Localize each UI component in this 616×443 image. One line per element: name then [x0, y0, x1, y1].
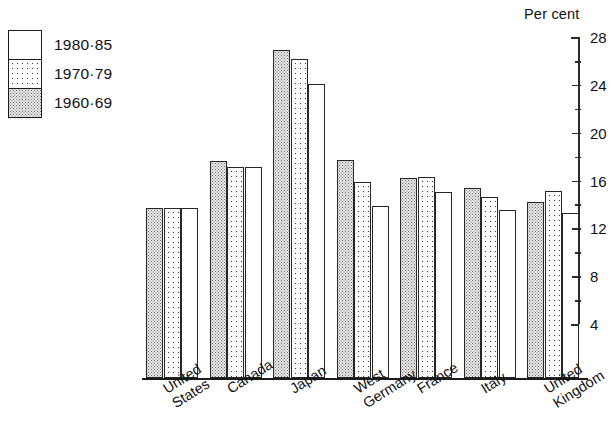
bar-group — [527, 0, 578, 378]
bar — [527, 202, 544, 378]
y-axis-minor-tick — [575, 109, 581, 111]
y-axis-tick-label: 24 — [590, 77, 607, 92]
bar-group — [146, 0, 197, 378]
y-axis-tick-label: 12 — [590, 221, 607, 236]
y-axis-minor-tick — [575, 204, 581, 206]
bar — [464, 188, 481, 378]
bar — [146, 208, 163, 378]
bar — [372, 206, 389, 378]
bar-group — [210, 0, 261, 378]
y-axis-title: Per cent — [524, 6, 580, 22]
y-axis-tick-label: 16 — [590, 173, 607, 188]
y-axis-tick — [572, 85, 581, 87]
bar — [481, 197, 498, 378]
y-axis-tick — [572, 228, 581, 230]
bar-group — [337, 0, 388, 378]
bar — [400, 178, 417, 378]
y-axis-tick-label: 28 — [590, 30, 607, 45]
bar — [273, 50, 290, 378]
y-axis-tick-label: 8 — [590, 269, 598, 284]
plot-area: UnitedStatesCanadaJapanWestGermanyFrance… — [0, 0, 616, 443]
y-axis-minor-tick — [575, 61, 581, 63]
y-axis-tick — [571, 324, 579, 326]
y-axis-tick-label: 20 — [590, 125, 607, 140]
y-axis-tick — [572, 133, 581, 135]
y-axis-tick-label: 4 — [590, 317, 598, 332]
bar — [337, 160, 354, 378]
bar — [181, 208, 198, 378]
y-axis-tick — [571, 37, 579, 39]
bar — [545, 191, 562, 378]
y-axis-minor-tick — [575, 157, 581, 159]
y-axis-tick — [572, 181, 581, 183]
bar — [245, 167, 262, 378]
bar — [227, 167, 244, 378]
bar — [291, 59, 308, 378]
y-axis-minor-tick — [575, 300, 581, 302]
bar-group — [273, 0, 324, 378]
bar-group — [400, 0, 451, 378]
bar — [164, 208, 181, 378]
y-axis-tick — [572, 276, 581, 278]
bar — [435, 192, 452, 378]
bar — [210, 161, 227, 378]
bar — [499, 210, 516, 378]
bar-chart: 1980·851970·791960·69 UnitedStatesCanada… — [0, 0, 616, 443]
bar — [354, 182, 371, 378]
bar — [418, 177, 435, 378]
bar-group — [464, 0, 515, 378]
bar — [308, 84, 325, 378]
y-axis: 481216202428 — [576, 30, 616, 340]
y-axis-minor-tick — [575, 252, 581, 254]
